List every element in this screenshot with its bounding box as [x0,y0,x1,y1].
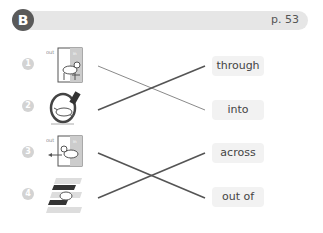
word-option-out-of[interactable]: out of [212,187,264,207]
word-option-through[interactable]: through [212,56,264,76]
word-option-across[interactable]: across [212,143,264,163]
matching-lines [0,0,323,233]
word-option-into[interactable]: into [212,100,264,120]
